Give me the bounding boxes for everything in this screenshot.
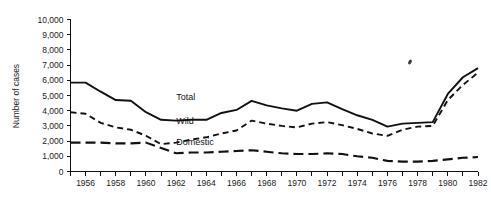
chart-page: 01,0002,0003,0004,0005,0006,0007,0008,00… [0,0,491,199]
series-label-wild: Wild [176,116,194,126]
y-tick-label: 6,000 [42,75,64,85]
series-line-total [71,68,479,127]
x-tick-label: 1962 [167,178,186,188]
scan-artifact-speck [407,59,412,65]
y-tick-label: 5,000 [42,91,64,101]
y-axis-title: Number of cases [11,64,21,128]
x-tick-label: 1972 [318,178,337,188]
rabies-cases-line-chart: 01,0002,0003,0004,0005,0006,0007,0008,00… [0,0,491,199]
x-tick-label: 1974 [348,178,367,188]
y-tick-label: 3,000 [42,121,64,131]
y-tick-label: 8,000 [42,45,64,55]
x-tick-label: 1968 [257,178,276,188]
y-tick-label: 2,000 [42,136,64,146]
data-series-group [71,68,479,161]
series-label-total: Total [176,92,195,102]
x-tick-label: 1966 [227,178,246,188]
y-axis-ticks [67,20,71,172]
x-tick-label: 1956 [76,178,95,188]
x-tick-label: 1976 [378,178,397,188]
y-tick-label: 1,000 [42,151,64,161]
x-tick-label: 1980 [438,178,457,188]
x-tick-label: 1960 [137,178,156,188]
y-tick-label: 9,000 [42,30,64,40]
y-tick-label: 10,000 [38,15,64,25]
y-tick-label: 4,000 [42,106,64,116]
x-tick-label: 1970 [287,178,306,188]
series-line-wild [71,73,479,144]
x-axis-tick-labels: 1956195819601962196419661968197019721974… [76,178,488,188]
x-tick-label: 1964 [197,178,216,188]
series-label-domestic: Domestic [176,137,214,147]
axes [71,20,479,172]
series-line-domestic [71,143,479,162]
x-axis-ticks [71,172,479,176]
y-axis-tick-labels: 01,0002,0003,0004,0005,0006,0007,0008,00… [38,15,64,177]
x-tick-label: 1958 [106,178,125,188]
x-tick-label: 1982 [469,178,488,188]
y-tick-label: 0 [59,167,64,177]
x-tick-label: 1978 [408,178,427,188]
y-tick-label: 7,000 [42,60,64,70]
